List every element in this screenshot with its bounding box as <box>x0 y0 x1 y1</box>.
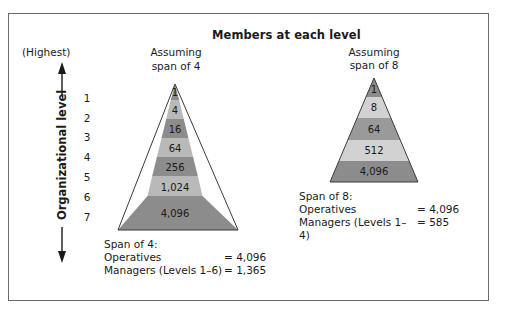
summary-row: Operatives = 4,096 <box>299 203 459 216</box>
band-value: 64 <box>155 142 195 155</box>
span8-heading-line1: Assuming <box>338 46 410 59</box>
summary-value: = 4,096 <box>417 203 459 216</box>
span8-heading-line2: span of 8 <box>338 59 410 72</box>
band-value: 16 <box>155 123 195 136</box>
summary-label: Managers (Levels 1–6) <box>104 264 224 277</box>
band-value: 1 <box>354 83 394 96</box>
summary-value: = 585 <box>417 216 449 242</box>
band-value: 8 <box>354 101 394 114</box>
band-value: 4,096 <box>349 165 399 178</box>
band-value: 4 <box>155 104 195 117</box>
span4-heading-line2: span of 4 <box>140 60 212 73</box>
band-value: 4,096 <box>150 207 200 220</box>
span8-summary: Span of 8: Operatives = 4,096 Managers (… <box>299 190 459 242</box>
arrow-down-icon <box>58 227 66 263</box>
arrow-up-icon <box>58 62 66 96</box>
band-value: 256 <box>155 161 195 174</box>
summary-title: Span of 4: <box>104 238 266 251</box>
band-value: 512 <box>354 144 394 157</box>
summary-value: = 1,365 <box>224 264 266 277</box>
span4-heading-line1: Assuming <box>140 46 212 59</box>
summary-value: = 4,096 <box>224 251 266 264</box>
band-value: 1 <box>155 86 195 99</box>
summary-row: Managers (Levels 1–6) = 1,365 <box>104 264 266 277</box>
summary-title: Span of 8: <box>299 190 459 203</box>
band-value: 1,024 <box>150 181 200 194</box>
summary-row: Managers (Levels 1–4) = 585 <box>299 216 459 242</box>
summary-row: Operatives = 4,096 <box>104 251 266 264</box>
span4-summary: Span of 4: Operatives = 4,096 Managers (… <box>104 238 266 277</box>
summary-label: Operatives <box>299 203 417 216</box>
summary-label: Operatives <box>104 251 224 264</box>
summary-label: Managers (Levels 1–4) <box>299 216 417 242</box>
band-value: 64 <box>354 123 394 136</box>
